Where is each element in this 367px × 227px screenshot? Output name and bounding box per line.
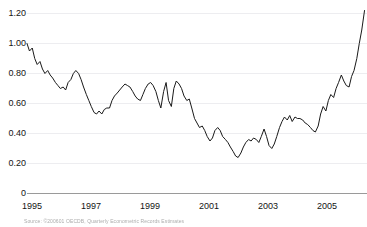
line-plot [0, 0, 367, 227]
chart-container: 1.20 1.00 0.80 0.60 0.40 0.20 0 1995 199… [0, 0, 367, 227]
gridline-group [27, 14, 367, 164]
source-note: Source: ©200601 OECDB, Quarterly Econome… [24, 218, 184, 224]
data-series-line [27, 11, 365, 158]
